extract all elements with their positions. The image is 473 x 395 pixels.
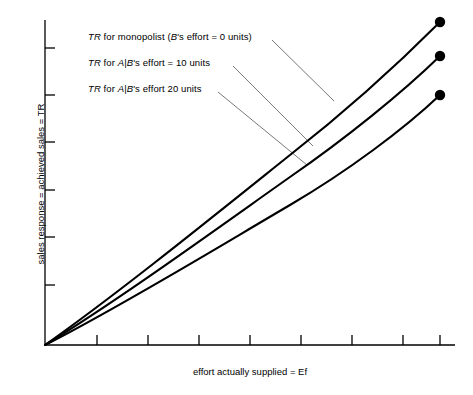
y-axis-ticks [45,48,55,285]
annotation-label-effort20: TR for A|B's effort 20 units [88,83,202,95]
annotation-label-monopolist: TR for monopolist (B's effort = 0 units) [88,31,252,43]
leader-line-effort10 [233,66,313,146]
endpoint-marker-monopolist [435,17,445,27]
chart-figure: TR for monopolist (B's effort = 0 units)… [0,0,473,395]
leader-line-monopolist [272,40,334,101]
chart-plot-area [0,0,473,395]
curve-monopolist [45,22,440,345]
data-curves [45,22,440,345]
leader-line-effort20 [218,92,307,165]
x-axis-ticks [97,335,440,345]
x-axis-label: effort actually supplied = Ef [45,366,455,377]
endpoint-marker-effort20 [435,90,445,100]
annotation-label-effort10: TR for A|B's effort = 10 units [88,57,210,69]
endpoint-markers [435,17,445,100]
leader-lines [218,40,334,165]
endpoint-marker-effort10 [435,51,445,61]
